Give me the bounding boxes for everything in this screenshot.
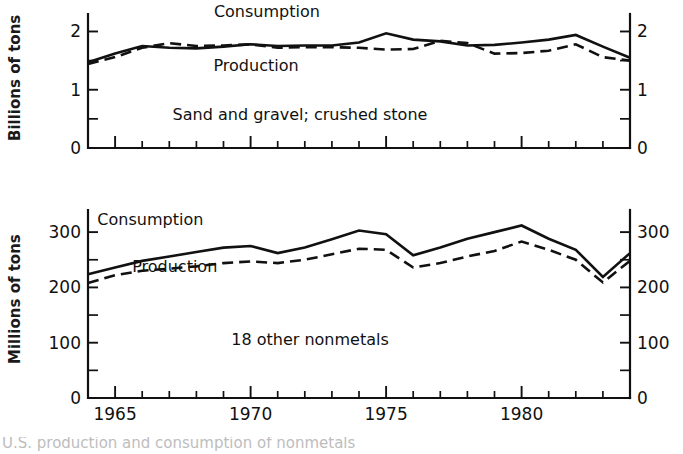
y-tick-label-left: 300 [49, 222, 81, 242]
y-tick-label-left: 0 [70, 138, 81, 158]
y-tick-label-left: 2 [70, 21, 81, 41]
y-tick-label-right: 200 [637, 277, 669, 297]
x-tick-label: 1965 [93, 404, 136, 424]
chart-annotation: 18 other nonmetals [231, 330, 389, 349]
series-label-production: Production [213, 56, 298, 75]
figure-caption: U.S. production and consumption of nonme… [2, 437, 355, 452]
chart-axis-frame [88, 14, 630, 148]
figure-caption-strip: U.S. production and consumption of nonme… [0, 437, 683, 454]
x-tick-label: 1970 [229, 404, 272, 424]
chart-svg-other-nonmetals: 001001002002003003001965197019751980Cons… [0, 180, 683, 454]
chart-annotation: Sand and gravel; crushed stone [173, 105, 428, 124]
series-label-consumption: Consumption [97, 210, 203, 229]
series-line-production [88, 41, 630, 64]
series-label-consumption: Consumption [214, 2, 320, 21]
y-tick-label-right: 300 [637, 222, 669, 242]
y-tick-label-right: 0 [637, 388, 648, 408]
series-label-production: Production [132, 257, 217, 276]
y-tick-label-left: 200 [49, 277, 81, 297]
y-tick-label-right: 2 [637, 21, 648, 41]
x-tick-label: 1975 [364, 404, 407, 424]
chart-panel-sand-gravel: Billions of tons 001122ConsumptionProduc… [0, 0, 683, 180]
y-tick-label-left: 1 [70, 80, 81, 100]
chart-panel-other-nonmetals: Millions of tons 00100100200200300300196… [0, 180, 683, 454]
y-tick-label-right: 100 [637, 333, 669, 353]
y-tick-label-left: 100 [49, 333, 81, 353]
y-tick-label-right: 0 [637, 138, 648, 158]
y-tick-label-left: 0 [70, 388, 81, 408]
chart-svg-sand-gravel: 001122ConsumptionProductionSand and grav… [0, 0, 683, 180]
y-tick-label-right: 1 [637, 80, 648, 100]
x-tick-label: 1980 [500, 404, 543, 424]
